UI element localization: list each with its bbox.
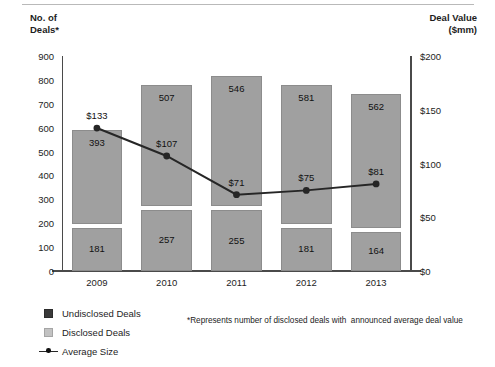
average-size-point-2010[interactable] — [163, 153, 170, 160]
footnote: *Represents number of disclosed deals wi… — [187, 316, 463, 325]
average-size-point-2013[interactable] — [373, 181, 380, 188]
right-tick-usd-0: $0 — [420, 266, 431, 277]
left-tick-900: 900 — [38, 51, 54, 62]
average-size-line — [62, 56, 411, 271]
category-label-2012: 2012 — [281, 277, 332, 288]
average-size-label-2012: $75 — [298, 172, 314, 183]
left-tick-800: 800 — [38, 74, 54, 85]
legend-label-average-size: Average Size — [62, 346, 118, 357]
left-axis-title: No. of Deals* — [30, 12, 59, 36]
left-tick-100: 100 — [38, 242, 54, 253]
average-size-point-2012[interactable] — [303, 187, 310, 194]
left-tick-0: 0 — [49, 266, 54, 277]
legend: Undisclosed DealsDisclosed DealsAverage … — [44, 305, 141, 362]
category-label-2010: 2010 — [141, 277, 192, 288]
legend-swatch-icon — [44, 328, 53, 337]
header-divider — [22, 4, 474, 5]
right-tick-usd-200: $200 — [420, 51, 441, 62]
category-label-2009: 2009 — [72, 277, 123, 288]
legend-label-undisclosed-deals: Undisclosed Deals — [62, 308, 141, 319]
left-tick-500: 500 — [38, 146, 54, 157]
plot-area: 0100200300400500600700800900 $0$50$100$1… — [62, 56, 411, 271]
category-label-2011: 2011 — [211, 277, 262, 288]
right-tick-usd-100: $100 — [420, 158, 441, 169]
legend-item-undisclosed-deals[interactable]: Undisclosed Deals — [44, 305, 141, 321]
left-tick-600: 600 — [38, 122, 54, 133]
legend-item-disclosed-deals[interactable]: Disclosed Deals — [44, 324, 141, 340]
left-tick-300: 300 — [38, 194, 54, 205]
legend-item-average-size[interactable]: Average Size — [44, 343, 141, 359]
legend-line-marker-icon — [44, 347, 53, 356]
average-size-label-2013: $81 — [368, 166, 384, 177]
category-label-2013: 2013 — [351, 277, 402, 288]
legend-label-disclosed-deals: Disclosed Deals — [62, 327, 130, 338]
average-size-label-2009: $133 — [86, 110, 107, 121]
legend-swatch-icon — [44, 309, 53, 318]
right-axis-title: Deal Value ($mm) — [429, 12, 477, 36]
left-tick-400: 400 — [38, 170, 54, 181]
right-tick-usd-50: $50 — [420, 212, 436, 223]
left-tick-700: 700 — [38, 98, 54, 109]
left-tick-200: 200 — [38, 218, 54, 229]
average-size-label-2011: $71 — [229, 177, 245, 188]
chart-canvas: No. of Deals* Deal Value ($mm) 010020030… — [0, 0, 495, 367]
average-size-label-2010: $107 — [156, 138, 177, 149]
average-size-point-2009[interactable] — [94, 125, 101, 132]
average-size-point-2011[interactable] — [233, 191, 240, 198]
right-tick-usd-150: $150 — [420, 104, 441, 115]
